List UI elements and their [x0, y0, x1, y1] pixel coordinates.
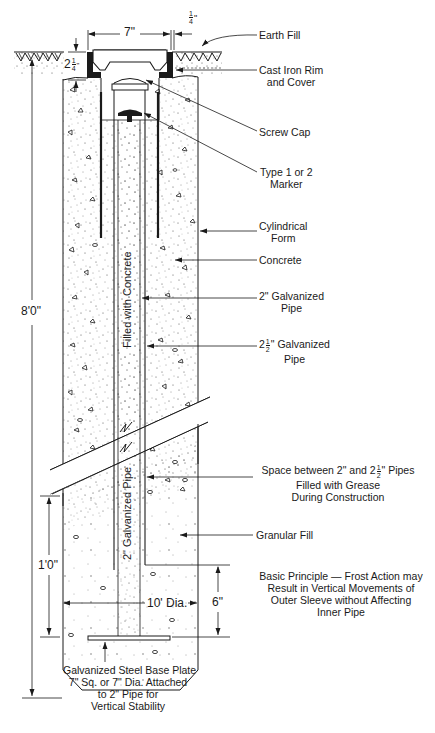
dim-diameter-label: 10' Dia. [147, 597, 187, 610]
label-granular-fill: Granular Fill [256, 529, 313, 541]
label-base-plate: Galvanized Steel Base Plate 7" Sq. or 7"… [63, 664, 193, 712]
label-2in-pipe: 2" Galvanized Pipe [259, 290, 324, 314]
dim-granular-height-label: 1'0" [38, 559, 58, 572]
earth-fill-right [172, 52, 222, 74]
dim-depth-label: 214" [64, 57, 79, 72]
pipe-2-vertical-label: 2" Galvanized Pipe [121, 467, 133, 560]
earth-fill-left [14, 52, 64, 74]
dim-gap-label: 14" [188, 10, 197, 25]
label-2-5in-pipe: 212" Galvanized Pipe [259, 338, 330, 365]
base-plate [88, 636, 170, 640]
monument-cross-section [0, 0, 435, 733]
label-cast-iron-rim: Cast Iron Rim and Cover [259, 64, 323, 88]
dim-cover-width-label: 7" [124, 26, 135, 39]
label-cylindrical-form: Cylindrical Form [259, 220, 307, 244]
pipe-2-5-inch [114, 120, 145, 638]
label-grease-space: Space between 2" and 212" Pipes Filled w… [256, 464, 420, 503]
dim-total-height [22, 60, 62, 698]
dim-total-height-label: 8'0" [21, 305, 41, 318]
label-basic-principle: Basic Principle — Frost Action may Resul… [255, 570, 427, 618]
leader-earth-fill [202, 35, 257, 46]
filled-with-concrete-label: Filled with Concrete [121, 251, 133, 348]
dim-cover-width [88, 30, 192, 50]
label-screw-cap: Screw Cap [259, 126, 310, 138]
label-concrete: Concrete [259, 254, 302, 266]
label-earth-fill: Earth Fill [259, 29, 300, 41]
cast-iron-cover [93, 50, 167, 70]
label-marker: Type 1 or 2 Marker [260, 166, 313, 190]
dim-plate-height-label: 6" [212, 596, 223, 609]
